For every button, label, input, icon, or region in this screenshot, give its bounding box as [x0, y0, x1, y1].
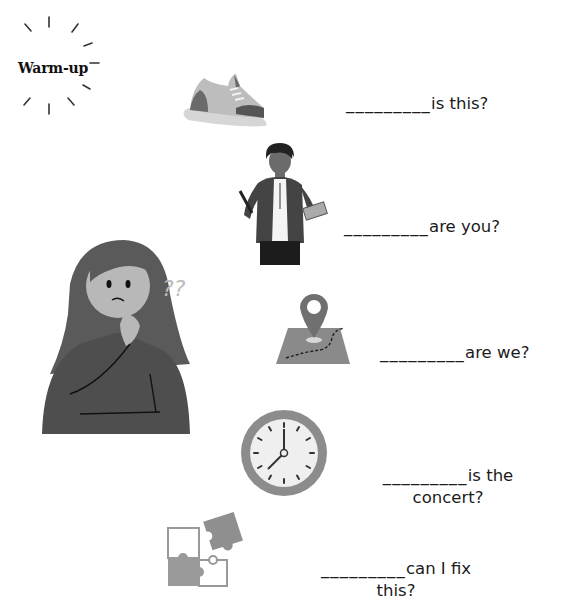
question-1: _________is this?	[346, 93, 536, 115]
question-text: are you?	[429, 217, 500, 236]
question-marks: ??	[162, 276, 185, 301]
question-text: are we?	[465, 343, 529, 362]
question-3: _________are we?	[380, 342, 580, 364]
answer-blank[interactable]: _________	[383, 466, 468, 485]
confused-girl-illustration	[40, 234, 200, 438]
puzzle-icon	[166, 508, 248, 588]
question-2: _________are you?	[344, 216, 544, 238]
shoe-icon	[178, 68, 270, 130]
clock-icon	[240, 409, 328, 497]
question-text: can I fix	[406, 559, 471, 578]
map-pin-icon	[274, 290, 354, 366]
answer-blank[interactable]: _________	[321, 559, 406, 578]
question-text-line2: this?	[296, 580, 496, 602]
question-text: is the	[468, 466, 514, 485]
answer-blank[interactable]: _________	[344, 217, 429, 236]
answer-blank[interactable]: _________	[346, 94, 431, 113]
answer-blank[interactable]: _________	[380, 343, 465, 362]
question-text: is this?	[431, 94, 488, 113]
teacher-figure	[236, 143, 328, 267]
question-text-line2: concert?	[358, 487, 538, 509]
question-4: _________is the concert?	[358, 465, 538, 509]
question-5: _________can I fix this?	[296, 558, 496, 602]
warmup-title: Warm-up	[18, 60, 88, 76]
